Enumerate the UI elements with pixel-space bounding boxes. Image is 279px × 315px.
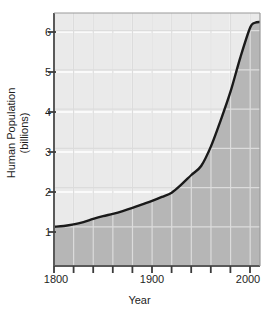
population-growth-chart: Human Population (billions) 6 5 4 3 2 1: [0, 0, 279, 315]
x-tick-label-1800: 1800: [44, 274, 68, 285]
x-tick-label-1900: 1900: [140, 274, 164, 285]
x-axis-tick-labels: 1800 1900 2000: [0, 274, 279, 288]
plot-area: [0, 0, 279, 315]
x-axis-label: Year: [0, 294, 279, 306]
x-axis-ticks: [54, 266, 250, 273]
x-tick-label-2000: 2000: [236, 274, 260, 285]
